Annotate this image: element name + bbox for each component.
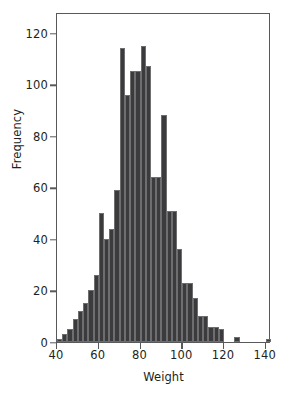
y-axis-ticks: 020406080100120 [0,13,48,343]
x-tick-label: 40 [36,348,76,362]
x-tick-label: 140 [245,348,285,362]
x-tick-mark [265,343,266,349]
histogram-bar [266,339,271,342]
x-axis-label: Weight [56,370,271,384]
y-tick-label: 100 [14,78,48,92]
y-tick-label: 80 [14,130,48,144]
x-tick-mark [223,343,224,349]
x-tick-mark [56,343,57,349]
plot-area [56,13,270,343]
histogram-bar [234,337,239,342]
x-tick-label: 100 [161,348,201,362]
y-tick-label: 0 [14,336,48,350]
histogram-figure: Frequency 020406080100120 40608010012014… [0,0,289,395]
x-tick-mark [98,343,99,349]
y-tick-label: 120 [14,27,48,41]
x-tick-label: 80 [120,348,160,362]
y-tick-label: 20 [14,284,48,298]
x-tick-mark [181,343,182,349]
histogram-bar [219,329,224,342]
y-tick-label: 60 [14,181,48,195]
x-tick-label: 120 [203,348,243,362]
x-tick-mark [140,343,141,349]
histogram-bars [57,14,269,342]
y-tick-label: 40 [14,233,48,247]
x-tick-label: 60 [78,348,118,362]
